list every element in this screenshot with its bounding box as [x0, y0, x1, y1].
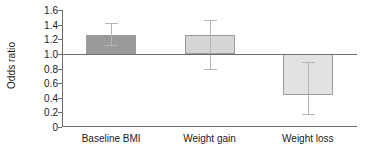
error-bar-stem: [210, 20, 211, 70]
plot-area: [62, 10, 357, 127]
y-axis-tick-mark: [58, 98, 62, 99]
x-axis-category-label: Weight gain: [183, 133, 236, 144]
y-axis-tick-label: 0.4: [24, 92, 58, 103]
y-axis-tick-mark: [58, 83, 62, 84]
error-bar-stem: [308, 62, 309, 114]
x-axis-tick-labels: Baseline BMIWeight gainWeight loss: [62, 131, 357, 151]
y-axis-tick-label: 1.0: [24, 48, 58, 59]
error-bar-cap-lower: [105, 45, 118, 46]
y-axis-tick-label: 0.8: [24, 63, 58, 74]
reference-line-at-one: [62, 54, 357, 55]
y-axis-tick-label: 1.2: [24, 34, 58, 45]
y-axis-line: [62, 10, 63, 127]
error-bar-cap-upper: [302, 62, 315, 63]
y-axis-tick-label: 0.2: [24, 107, 58, 118]
y-axis-tick-mark: [58, 25, 62, 26]
y-axis-tick-mark: [58, 10, 62, 11]
error-bar-cap-lower: [302, 114, 315, 115]
y-axis-tick-mark: [58, 69, 62, 70]
x-axis-category-label: Weight loss: [282, 133, 334, 144]
x-axis-line: [62, 126, 357, 127]
y-axis-tick-labels: 00.20.40.60.81.01.21.41.6: [20, 0, 58, 160]
error-bar-cap-upper: [105, 23, 118, 24]
y-axis-tick-label: 1.4: [24, 19, 58, 30]
y-axis-tick-label: 0.6: [24, 78, 58, 89]
x-axis-category-label: Baseline BMI: [82, 133, 141, 144]
y-axis-tick-label: 1.6: [24, 5, 58, 16]
y-axis-label-text: Odds ratio: [7, 41, 18, 88]
y-axis-tick-mark: [58, 39, 62, 40]
error-bar-cap-lower: [204, 69, 217, 70]
odds-ratio-bar-chart: Odds ratio 00.20.40.60.81.01.21.41.6 Bas…: [0, 0, 367, 160]
y-axis-tick-mark: [58, 127, 62, 128]
y-axis-label: Odds ratio: [2, 0, 22, 130]
error-bar-stem: [111, 23, 112, 45]
y-axis-tick-mark: [58, 112, 62, 113]
y-axis-tick-label: 0: [24, 122, 58, 133]
error-bar-cap-upper: [204, 20, 217, 21]
